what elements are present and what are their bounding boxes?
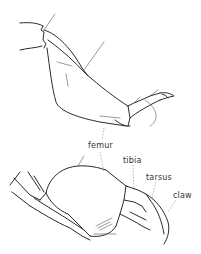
label-tarsus: tarsus bbox=[146, 173, 172, 182]
tarsus-leader bbox=[152, 182, 156, 198]
upper-leg bbox=[20, 14, 174, 126]
leg-illustration bbox=[0, 0, 201, 254]
label-claw: claw bbox=[173, 191, 192, 200]
label-femur: femur bbox=[88, 141, 113, 150]
upper-leader bbox=[102, 128, 104, 140]
lower-leg bbox=[10, 156, 169, 244]
claw-leader bbox=[168, 200, 176, 212]
label-tibia: tibia bbox=[123, 156, 142, 165]
tibia-leader bbox=[133, 165, 134, 190]
